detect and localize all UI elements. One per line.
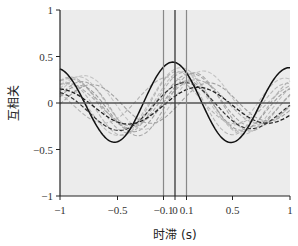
x-tick-label: −0.5 xyxy=(108,204,128,216)
x-tick-label: 0.1 xyxy=(180,204,194,216)
y-axis-title: 互相关 xyxy=(7,85,21,121)
x-tick-label: −1 xyxy=(54,204,66,216)
x-axis-title: 时滞 (s) xyxy=(153,228,196,242)
x-tick-label: 1 xyxy=(287,204,293,216)
y-tick-label: −0.5 xyxy=(33,144,53,156)
cross-correlation-chart: 10.50−0.5−1−1−0.5−0.100.10.51 互相关 时滞 (s) xyxy=(0,0,298,246)
x-tick-label: −0.1 xyxy=(154,204,174,216)
x-tick-label: 0.5 xyxy=(226,204,240,216)
y-tick-label: 0 xyxy=(48,97,54,109)
y-tick-label: −1 xyxy=(41,190,53,202)
y-tick-label: 1 xyxy=(48,4,54,16)
y-tick-label: 0.5 xyxy=(39,51,53,63)
x-tick-label: 0 xyxy=(172,204,178,216)
